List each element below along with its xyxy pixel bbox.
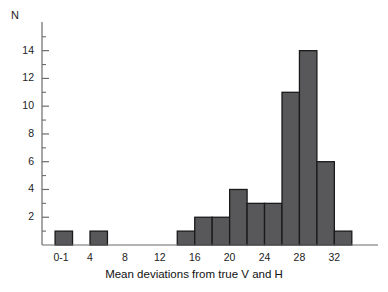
histogram-bar [317, 162, 334, 245]
y-tick-label: 8 [12, 127, 34, 139]
x-tick-label: 20 [224, 251, 236, 263]
histogram-bar [55, 231, 72, 245]
y-axis-label: N [11, 9, 19, 21]
x-tick-label: 0-1 [53, 251, 68, 263]
y-tick-label: 4 [12, 182, 34, 194]
x-tick-label: 4 [87, 251, 93, 263]
x-tick-label: 12 [154, 251, 166, 263]
y-tick-label: 2 [12, 210, 34, 222]
y-ticks [42, 37, 49, 231]
x-tick-label: 32 [329, 251, 341, 263]
histogram-bar [212, 217, 229, 245]
plot-area [0, 0, 388, 292]
histogram-bar [299, 51, 316, 245]
x-tick-label: 16 [189, 251, 201, 263]
histogram-bar [265, 203, 282, 245]
histogram-figure: N Mean deviations from true V and H 2468… [0, 0, 388, 292]
x-tick-label: 24 [259, 251, 271, 263]
x-tick-label: 8 [122, 251, 128, 263]
y-tick-label: 14 [12, 44, 34, 56]
y-tick-label: 12 [12, 71, 34, 83]
x-axis-label: Mean deviations from true V and H [0, 268, 388, 280]
histogram-bar [230, 189, 247, 245]
histogram-bar [282, 92, 299, 245]
histogram-bar [334, 231, 351, 245]
x-tick-label: 28 [294, 251, 306, 263]
histogram-bar [195, 217, 212, 245]
y-tick-label: 6 [12, 155, 34, 167]
histogram-bar [177, 231, 194, 245]
bars-group [55, 51, 352, 245]
y-tick-label: 10 [12, 99, 34, 111]
histogram-bar [90, 231, 107, 245]
histogram-bar [247, 203, 264, 245]
